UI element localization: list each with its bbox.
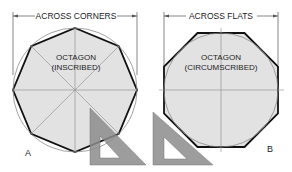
shape-subtitle-a: (INSCRIBED) bbox=[52, 63, 101, 72]
figure-letter-b: B bbox=[267, 144, 273, 154]
figure-b: ACROSS FLATS OCTAGON (CIRCUMSCRIBED) B bbox=[153, 11, 284, 165]
construction-lines-a bbox=[13, 28, 137, 152]
shape-title-a: OCTAGON bbox=[56, 53, 96, 62]
dimension-label-b: ACROSS FLATS bbox=[189, 11, 253, 21]
figure-a: ACROSS CORNERS OCTAGON (INSCRIBED) A bbox=[13, 11, 146, 165]
dimension-label-a: ACROSS CORNERS bbox=[36, 11, 117, 21]
octagon-construction-diagram: ACROSS CORNERS OCTAGON (INSCRIBED) A ACR… bbox=[0, 0, 292, 172]
figure-letter-a: A bbox=[25, 148, 31, 158]
shape-subtitle-b: (CIRCUMSCRIBED) bbox=[185, 63, 258, 72]
shape-title-b: OCTAGON bbox=[201, 53, 241, 62]
